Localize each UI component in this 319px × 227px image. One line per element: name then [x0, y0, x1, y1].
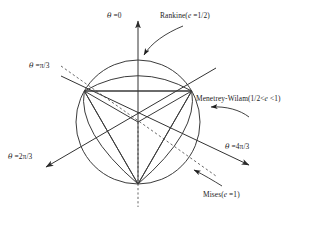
rankine-callout-arrow	[144, 26, 183, 55]
chord-left	[84, 91, 138, 184]
curve-label-rankine: Rankine(e =1/2)	[160, 12, 210, 19]
axis-label-theta-0: θ =0	[107, 12, 122, 19]
mises-callout-arrow	[194, 170, 222, 186]
axis-label-theta-2pi-3: θ =2π/3	[8, 153, 32, 160]
axis-label-theta-4pi-3: θ =4π/3	[225, 143, 249, 150]
axis-theta-4pi-3	[61, 76, 249, 165]
curve-label-mises: Mises(e =1)	[203, 191, 240, 198]
spoke-upper-left	[84, 91, 138, 122]
yield-surface-figure	[0, 0, 319, 227]
curve-label-menetrey-wilam: Menetrey-Wilam(1/2<e <1)	[196, 95, 281, 102]
axis-theta-4pi-3-line	[61, 76, 249, 165]
figure-root: θ =0 θ =π/3 θ =2π/3 θ =4π/3 Rankine(e =1…	[0, 0, 319, 227]
axis-label-theta-pi-3: θ =π/3	[29, 62, 50, 69]
menetrey-callout-arrow	[211, 107, 249, 117]
chord-right	[138, 91, 192, 184]
spoke-upper-right	[138, 91, 192, 122]
